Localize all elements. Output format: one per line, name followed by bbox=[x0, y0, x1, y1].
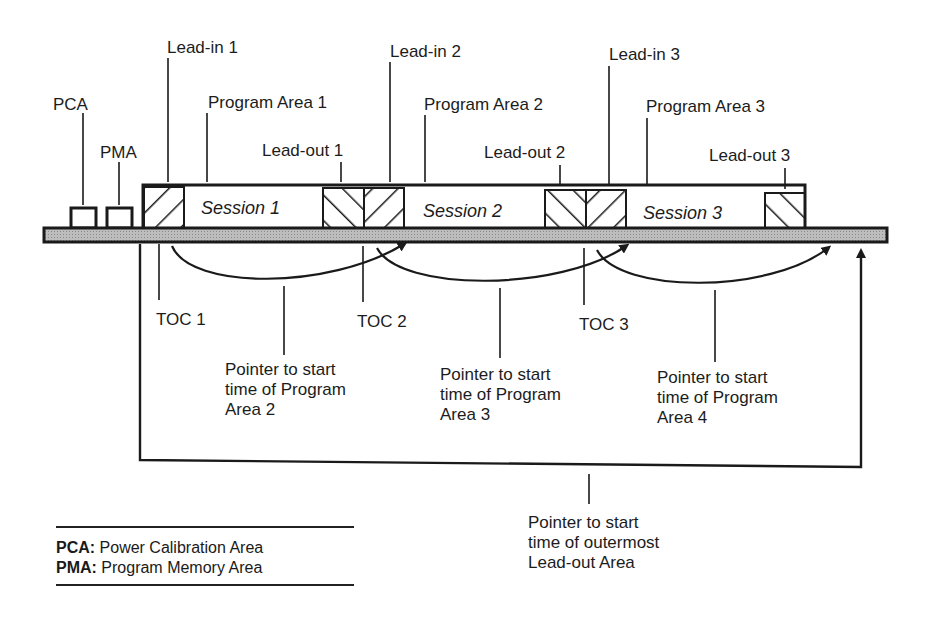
toc-1-label: TOC 1 bbox=[156, 310, 206, 330]
pca-label: PCA bbox=[53, 95, 88, 115]
pointer-program-area-3-caption: Pointer to start time of Program Area 3 bbox=[440, 365, 561, 425]
legend-bottom-rule bbox=[56, 584, 354, 586]
lead-out-2-block bbox=[545, 190, 586, 230]
pca-block bbox=[71, 208, 96, 228]
lead-in-1-block bbox=[144, 187, 184, 229]
lead-in-3-label: Lead-in 3 bbox=[609, 45, 680, 65]
legend-item-pca: PCA: Power Calibration Area bbox=[56, 538, 354, 558]
lead-in-1-label: Lead-in 1 bbox=[167, 38, 238, 58]
pma-block bbox=[107, 208, 132, 228]
lead-in-2-block bbox=[364, 188, 404, 229]
lead-out-3-label: Lead-out 3 bbox=[709, 146, 790, 166]
session-2-label: Session 2 bbox=[423, 201, 502, 222]
top-leader-lines bbox=[83, 58, 785, 205]
lead-out-1-label: Lead-out 1 bbox=[262, 141, 343, 161]
pointer-outermost-lead-out-caption: Pointer to start time of outermost Lead-… bbox=[528, 513, 659, 573]
lead-out-3-block bbox=[765, 193, 805, 230]
pointer-program-area-2-caption: Pointer to start time of Program Area 2 bbox=[225, 360, 346, 420]
disc-track-bar bbox=[44, 228, 887, 242]
session-1-label: Session 1 bbox=[201, 198, 280, 219]
program-area-3-label: Program Area 3 bbox=[646, 97, 765, 117]
toc-2-label: TOC 2 bbox=[357, 312, 407, 332]
toc-pointer-arrows bbox=[172, 244, 828, 283]
pma-label: PMA bbox=[100, 143, 137, 163]
lead-in-2-label: Lead-in 2 bbox=[390, 42, 461, 62]
lead-out-1-block bbox=[323, 188, 364, 229]
pointer-program-area-4-caption: Pointer to start time of Program Area 4 bbox=[657, 368, 778, 428]
toc-3-label: TOC 3 bbox=[579, 315, 629, 335]
session-3-label: Session 3 bbox=[643, 203, 722, 224]
legend-item-pma: PMA: Program Memory Area bbox=[56, 558, 354, 578]
legend: PCA: Power Calibration Area PMA: Program… bbox=[56, 526, 354, 586]
program-area-1-label: Program Area 1 bbox=[208, 93, 327, 113]
lead-out-2-label: Lead-out 2 bbox=[484, 143, 565, 163]
lead-in-3-block bbox=[586, 190, 626, 230]
program-area-2-label: Program Area 2 bbox=[424, 95, 543, 115]
